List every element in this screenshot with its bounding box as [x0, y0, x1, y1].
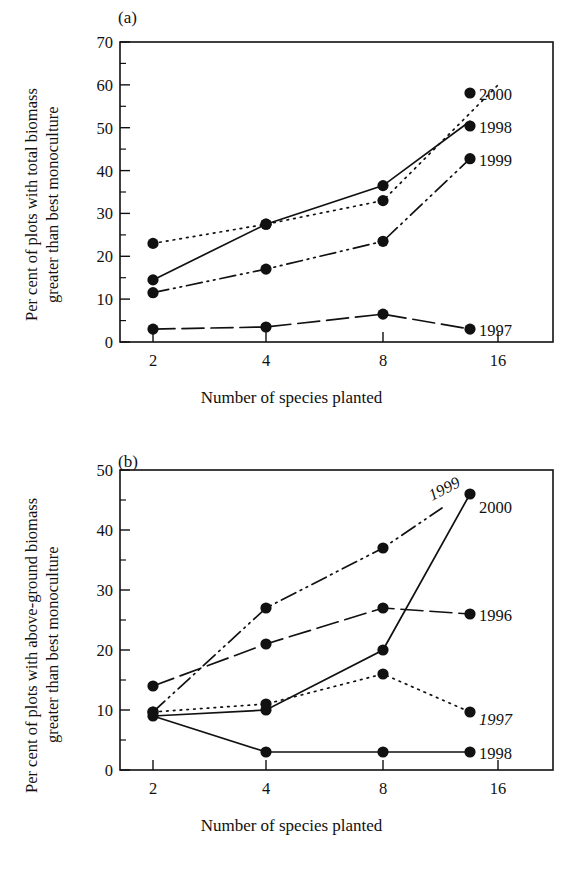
xtick-16: 16 [490, 779, 507, 798]
panel-b-x-tick-labels: 2 4 8 16 [149, 779, 506, 798]
panel-a-x-ticks [153, 332, 498, 342]
data-point [377, 236, 388, 247]
series-label-1997: 1997 [479, 321, 512, 340]
panel-a-series-1999: 1999 [147, 151, 512, 299]
panel-b-x-axis-label: Number of species planted [0, 816, 583, 836]
panel-b-series-1998: 1998 [153, 716, 512, 763]
data-point [260, 638, 271, 649]
panel-b-y-tick-labels: 50 40 30 20 10 0 [97, 461, 114, 780]
data-point [147, 324, 158, 335]
panel-a-plot: 70 60 50 40 30 20 10 0 2 4 8 16 [0, 0, 583, 400]
panel-a-series-2000: 2000 [147, 85, 512, 249]
ytick-70: 70 [97, 33, 114, 52]
data-point [464, 324, 475, 335]
panel-b-plot: 50 40 30 20 10 0 2 4 8 16 [0, 435, 583, 835]
ytick-20: 20 [97, 247, 114, 266]
data-point [464, 120, 475, 131]
panel-a-y-tick-labels: 70 60 50 40 30 20 10 0 [97, 33, 114, 352]
ytick-0: 0 [105, 761, 113, 780]
data-point [260, 219, 271, 230]
series-label-1996: 1996 [479, 606, 512, 625]
series-label-1999: 1999 [425, 473, 463, 505]
series-label-1997: 1997 [479, 710, 513, 729]
data-point [377, 180, 388, 191]
data-point [260, 698, 271, 709]
panel-a-x-tick-labels: 2 4 8 16 [149, 351, 506, 370]
ytick-30: 30 [97, 204, 114, 223]
ytick-10: 10 [97, 701, 114, 720]
ytick-40: 40 [97, 162, 114, 181]
xtick-4: 4 [262, 779, 270, 798]
series-label-2000: 2000 [479, 85, 512, 104]
xtick-2: 2 [149, 351, 157, 370]
panel-b-x-ticks [153, 760, 498, 770]
data-point [464, 706, 475, 717]
data-point [147, 274, 158, 285]
data-point [377, 542, 388, 553]
ytick-0: 0 [105, 333, 113, 352]
series-label-1998: 1998 [479, 118, 512, 137]
panel-a-series-1997: 1997 [147, 309, 512, 341]
ytick-10: 10 [97, 290, 114, 309]
xtick-8: 8 [379, 779, 387, 798]
ytick-50: 50 [97, 119, 114, 138]
ytick-30: 30 [97, 581, 114, 600]
ytick-20: 20 [97, 641, 114, 660]
data-point [377, 602, 388, 613]
data-point [260, 746, 271, 757]
panel-a: (a) Per cent of plots with total biomass… [0, 0, 583, 435]
data-point [377, 668, 388, 679]
ytick-50: 50 [97, 461, 114, 480]
data-point [464, 608, 475, 619]
data-point [260, 264, 271, 275]
series-label-1999: 1999 [479, 151, 512, 170]
data-point [377, 746, 388, 757]
panel-b-y-ticks [120, 470, 130, 770]
ytick-60: 60 [97, 76, 114, 95]
panel-b-series-1999: 1999 [147, 473, 463, 718]
panel-a-x-axis-label: Number of species planted [0, 388, 583, 408]
panel-a-y-ticks [120, 42, 130, 342]
panel-b: (b) Per cent of plots with above-ground … [0, 435, 583, 870]
data-point [377, 644, 388, 655]
data-point [464, 87, 475, 98]
xtick-16: 16 [490, 351, 507, 370]
xtick-2: 2 [149, 779, 157, 798]
series-label-1998: 1998 [479, 744, 512, 763]
data-point [464, 746, 475, 757]
figure-panels: (a) Per cent of plots with total biomass… [0, 0, 583, 870]
data-point [377, 309, 388, 320]
xtick-8: 8 [379, 351, 387, 370]
data-point [147, 287, 158, 298]
data-point [464, 153, 475, 164]
ytick-40: 40 [97, 521, 114, 540]
data-point [260, 602, 271, 613]
panel-b-series-2000: 2000 [147, 488, 512, 721]
data-point [147, 238, 158, 249]
series-label-2000: 2000 [479, 498, 512, 517]
xtick-4: 4 [262, 351, 270, 370]
data-point [464, 488, 475, 499]
data-point [260, 321, 271, 332]
data-point [377, 195, 388, 206]
data-point [147, 680, 158, 691]
panel-a-series-1998: 1998 [147, 118, 512, 286]
